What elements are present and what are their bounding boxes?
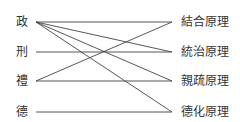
edge-zheng-dehua bbox=[36, 22, 172, 112]
right-node-tongzhi: 統治原理 bbox=[181, 45, 229, 59]
left-node-li: 禮 bbox=[16, 74, 28, 88]
right-node-qinshu: 親疏原理 bbox=[181, 74, 229, 88]
left-node-de: 德 bbox=[16, 105, 28, 119]
left-node-xing: 刑 bbox=[16, 45, 28, 59]
right-node-jiehe: 結合原理 bbox=[181, 15, 229, 29]
edge-zheng-tongzhi bbox=[36, 22, 172, 52]
left-node-zheng: 政 bbox=[16, 15, 28, 29]
right-node-dehua: 德化原理 bbox=[181, 105, 229, 119]
